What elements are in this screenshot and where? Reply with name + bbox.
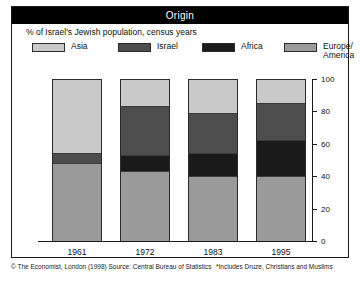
bar-segment-europe-america: [121, 172, 169, 241]
chart-title-bar: Origin: [12, 7, 348, 24]
bar-1983: [188, 79, 238, 241]
x-axis-label-1961: 1961: [52, 247, 102, 257]
y-tick-label: 0: [321, 237, 325, 246]
source-credit: © The Economist, London (1998) Source: C…: [11, 263, 212, 270]
legend-item-africa: Africa: [202, 42, 263, 52]
y-axis-line: [312, 79, 313, 242]
chart-legend: Asia Israel Africa Europe/ America: [32, 42, 332, 66]
legend-item-asia: Asia: [32, 42, 88, 52]
page-title: Origin: [166, 11, 194, 21]
bar-segment-israel: [121, 107, 169, 155]
bar-segment-africa: [121, 156, 169, 172]
legend-item-europe-america: Europe/ America: [284, 42, 354, 60]
y-tick-mark: [312, 111, 317, 112]
bar-segment-asia: [189, 80, 237, 114]
chart-subtitle: % of Israel's Jewish population, census …: [26, 27, 197, 37]
y-tick-mark: [312, 176, 317, 177]
bar-segment-israel: [189, 114, 237, 154]
y-tick-mark: [312, 209, 317, 210]
y-tick-label: 80: [321, 107, 330, 116]
bar-segment-israel: [53, 154, 101, 164]
bar-segment-asia: [257, 80, 305, 104]
bar-segment-africa: [189, 154, 237, 177]
y-tick-mark: [312, 79, 317, 80]
legend-item-israel: Israel: [118, 42, 178, 52]
bar-segment-asia: [53, 80, 101, 154]
legend-swatch-asia: [32, 43, 65, 52]
y-tick-mark: [312, 241, 317, 242]
legend-label-israel: Israel: [157, 42, 178, 51]
legend-label-europe-america: Europe/ America: [323, 42, 354, 60]
bar-1961: [52, 79, 102, 241]
footnote: *Includes Druze, Christians and Muslims: [216, 263, 333, 270]
legend-swatch-israel: [118, 43, 151, 52]
chart-card: Origin % of Israel's Jewish population, …: [11, 6, 349, 258]
bar-segment-europe-america: [53, 164, 101, 241]
y-tick-mark: [312, 144, 317, 145]
bar-segment-europe-america: [189, 177, 237, 241]
legend-label-africa: Africa: [241, 42, 263, 51]
chart-footer: © The Economist, London (1998) Source: C…: [11, 263, 349, 277]
x-axis-label-1995: 1995: [256, 247, 306, 257]
bar-segment-europe-america: [257, 177, 305, 241]
y-tick-label: 40: [321, 172, 330, 181]
legend-label-asia: Asia: [71, 42, 88, 51]
y-tick-label: 100: [321, 75, 334, 84]
y-tick-label: 20: [321, 204, 330, 213]
x-axis-label-1983: 1983: [188, 247, 238, 257]
y-tick-label: 60: [321, 139, 330, 148]
legend-swatch-europe-america: [284, 43, 317, 52]
bar-1972: [120, 79, 170, 241]
bar-segment-asia: [121, 80, 169, 107]
bar-segment-africa: [257, 141, 305, 176]
bar-segment-israel: [257, 104, 305, 141]
bar-1995: [256, 79, 306, 241]
chart-page: Origin % of Israel's Jewish population, …: [0, 0, 360, 282]
plot-area: 020406080100 1961197219831995: [38, 79, 312, 241]
legend-swatch-africa: [202, 43, 235, 52]
x-axis-line: [38, 241, 313, 242]
x-axis-label-1972: 1972: [120, 247, 170, 257]
